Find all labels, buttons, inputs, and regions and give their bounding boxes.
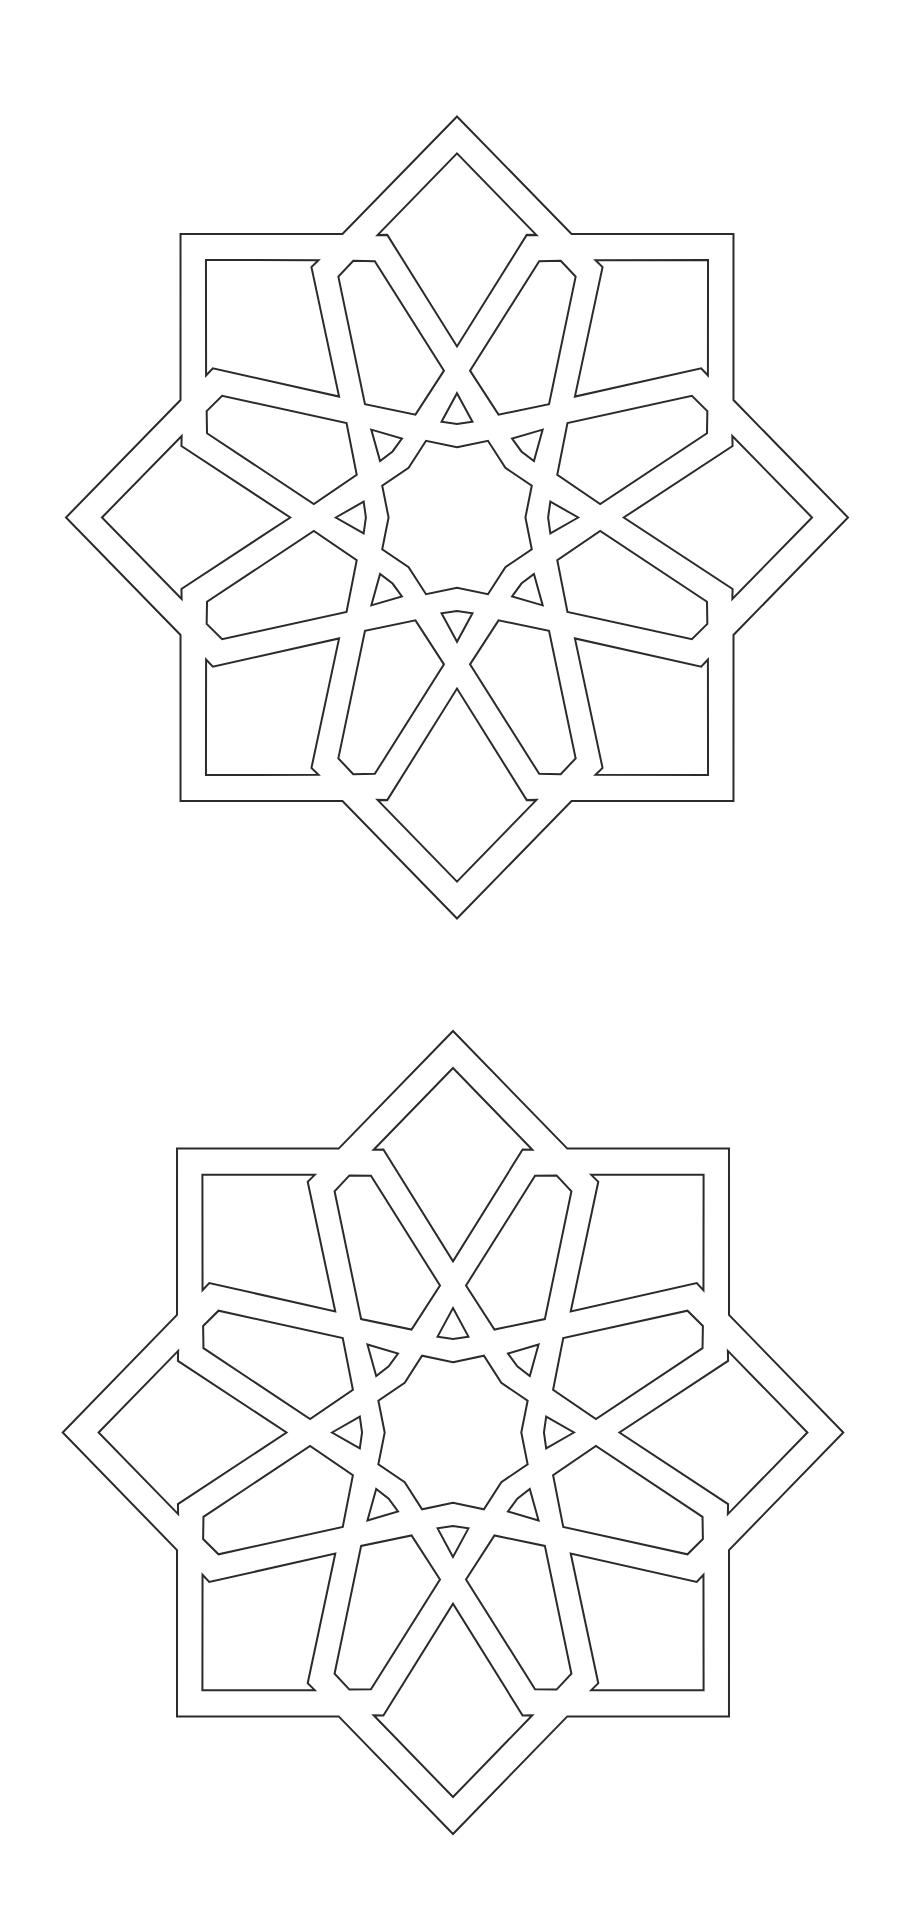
- point-cell: [624, 436, 812, 599]
- small-triangle-cell: [438, 1526, 469, 1557]
- small-triangle-cell: [548, 502, 578, 534]
- small-triangle-cell: [438, 1308, 469, 1339]
- hexagon-cell: [553, 1446, 703, 1554]
- outer-star-outline: [66, 117, 848, 919]
- small-triangle-cell: [544, 1417, 574, 1449]
- small-triangle-cell: [371, 574, 402, 605]
- star-ornament-bottom: [63, 1031, 844, 1834]
- small-triangle-cell: [371, 430, 402, 461]
- point-cell: [206, 260, 339, 397]
- point-cell: [571, 1175, 704, 1312]
- small-triangle-cell: [442, 393, 473, 424]
- hexagon-cell: [335, 1535, 440, 1689]
- center-rosette: [382, 441, 532, 594]
- small-triangle-cell: [367, 1344, 398, 1375]
- small-triangle-cell: [442, 611, 473, 642]
- center-rosette: [378, 1356, 527, 1510]
- point-cell: [102, 436, 290, 599]
- hexagon-cell: [470, 620, 576, 774]
- point-cell: [206, 638, 339, 775]
- point-cell: [374, 1068, 533, 1261]
- hexagon-cell: [338, 620, 444, 774]
- hexagon-cell: [335, 1175, 440, 1329]
- hexagon-cell: [203, 1446, 353, 1554]
- ornament-canvas: [0, 0, 914, 1915]
- small-triangle-cell: [367, 1489, 398, 1520]
- star-ornament-top: [66, 117, 848, 919]
- small-triangle-cell: [332, 1417, 362, 1449]
- small-triangle-cell: [508, 1344, 539, 1375]
- hexagon-cell: [207, 531, 357, 639]
- hexagon-cell: [557, 396, 707, 504]
- point-cell: [378, 153, 537, 346]
- hexagon-cell: [466, 1535, 571, 1689]
- small-triangle-cell: [512, 574, 543, 605]
- hexagon-cell: [338, 261, 444, 415]
- hexagon-cell: [466, 1175, 571, 1329]
- point-cell: [575, 638, 708, 775]
- point-cell: [202, 1554, 335, 1691]
- small-triangle-cell: [512, 430, 543, 461]
- point-cell: [374, 1604, 533, 1797]
- hexagon-cell: [553, 1311, 703, 1419]
- point-cell: [378, 689, 537, 882]
- hexagon-cell: [470, 261, 576, 415]
- point-cell: [619, 1351, 807, 1514]
- point-cell: [571, 1554, 704, 1691]
- outer-star-outline: [63, 1031, 844, 1834]
- hexagon-cell: [557, 531, 707, 639]
- hexagon-cell: [207, 396, 357, 504]
- hexagon-cell: [203, 1311, 353, 1419]
- small-triangle-cell: [336, 502, 366, 534]
- small-triangle-cell: [508, 1489, 539, 1520]
- point-cell: [99, 1351, 287, 1514]
- point-cell: [575, 260, 708, 397]
- point-cell: [202, 1175, 335, 1312]
